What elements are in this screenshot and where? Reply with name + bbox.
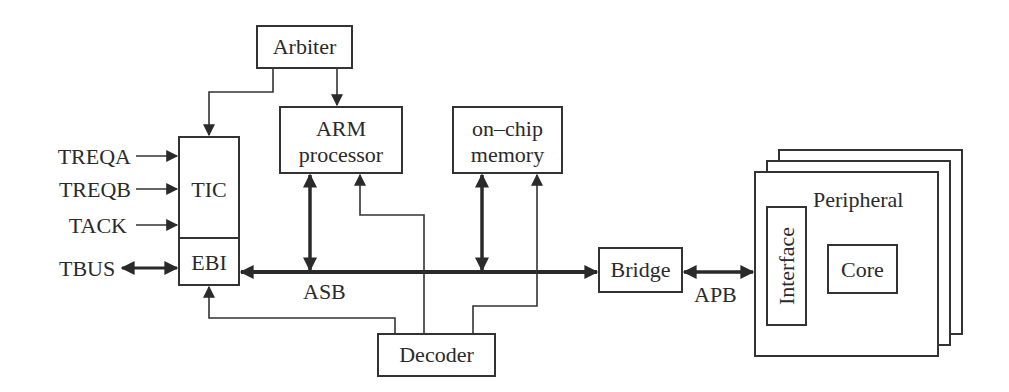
apb-label: APB <box>694 282 737 307</box>
bridge-label: Bridge <box>611 257 671 282</box>
arbiter-to-tic-arrow <box>209 68 273 135</box>
arm-processor-block: ARM processor <box>280 107 402 173</box>
decoder-to-ebi-arrow <box>209 287 395 334</box>
peripheral-stack: Peripheral Interface Core <box>755 150 962 356</box>
tic-ebi-block: TIC EBI <box>179 137 239 285</box>
decoder-to-arm-arrow <box>360 175 424 334</box>
tic-label: TIC <box>191 177 226 202</box>
memory-label-line1: on–chip <box>472 116 543 141</box>
peripheral-label: Peripheral <box>813 187 903 212</box>
arbiter-label: Arbiter <box>273 34 337 59</box>
on-chip-memory-block: on–chip memory <box>453 107 562 173</box>
core-label: Core <box>841 257 884 282</box>
interface-label: Interface <box>774 227 799 305</box>
arm-label-line1: ARM <box>316 116 366 141</box>
treqb-label: TREQB <box>59 177 131 202</box>
tbus-label: TBUS <box>59 256 115 281</box>
arbiter-block: Arbiter <box>257 26 352 68</box>
ebi-label: EBI <box>191 250 226 275</box>
arm-label-line2: processor <box>299 142 384 167</box>
asb-label: ASB <box>303 279 346 304</box>
treqa-label: TREQA <box>58 144 131 169</box>
decoder-block: Decoder <box>378 334 495 376</box>
tack-label: TACK <box>69 213 127 238</box>
memory-label-line2: memory <box>471 142 544 167</box>
bridge-block: Bridge <box>599 248 682 292</box>
amba-system-diagram: Arbiter ARM processor on–chip memory TIC… <box>0 0 1009 392</box>
decoder-label: Decoder <box>399 342 474 367</box>
